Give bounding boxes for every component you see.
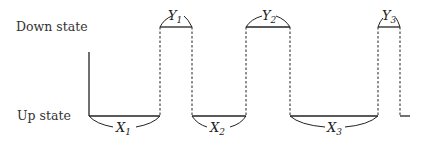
brace-x2-left	[192, 116, 207, 127]
down-state-label: Down state	[16, 19, 88, 34]
brace-y3-right	[396, 18, 400, 27]
up-state-label: Up state	[17, 108, 71, 123]
x2-label: X2	[209, 120, 225, 137]
brace-x2-right	[230, 116, 246, 127]
brace-x3-left	[290, 116, 325, 127]
y3-label: Y3	[382, 8, 397, 25]
up-down-state-diagram: Down state Up state X1 X2 X3 Y1 Y2 Y3	[0, 0, 425, 141]
y2-label: Y2	[262, 8, 277, 25]
y1-label: Y1	[168, 8, 182, 25]
brace-x3-right	[345, 116, 378, 127]
brace-x1-right	[136, 116, 160, 127]
brace-x1-left	[89, 116, 113, 127]
x3-label: X3	[326, 120, 342, 137]
x1-label: X1	[115, 120, 131, 137]
brace-y2-right	[276, 16, 290, 27]
brace-y1-right	[184, 16, 192, 27]
brace-y2-left	[246, 16, 262, 27]
